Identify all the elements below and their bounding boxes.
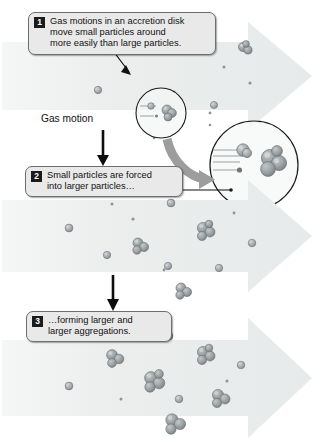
- callout-step-2-badge: 2: [31, 171, 42, 182]
- callout-step-2-text: Small particles are forced into larger p…: [47, 170, 152, 192]
- callout-step-3-text: …forming larger and larger aggregations.: [48, 315, 133, 337]
- gas-streak: [186, 124, 211, 127]
- callout-step-1: 1 Gas motions in an accretion disk move …: [28, 12, 216, 55]
- gas-motion-label: Gas motion: [41, 113, 93, 124]
- gas-streak: [186, 112, 211, 115]
- callout-step-3-badge: 3: [32, 316, 43, 327]
- flow-arrow-2-to-3: [107, 275, 119, 311]
- flow-arrow-1-to-2: [97, 130, 109, 166]
- callout-step-2: 2 Small particles are forced into larger…: [25, 166, 183, 197]
- aggregate-particle: [150, 414, 186, 434]
- callout-step-1-text: Gas motions in an accretion disk move sm…: [50, 16, 184, 50]
- diagram-canvas: Gas motion 1 Gas motions in an accretion…: [0, 0, 323, 446]
- aggregate-particle: [176, 283, 192, 299]
- callout-step-3: 3 …forming larger and larger aggregation…: [26, 311, 172, 342]
- callout-step-1-badge: 1: [34, 17, 45, 28]
- diagram-svg: [0, 0, 323, 446]
- collision-detail-source: [136, 88, 186, 138]
